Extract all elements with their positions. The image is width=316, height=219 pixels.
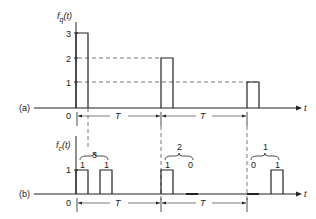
pulse-3 — [76, 33, 88, 108]
period-label-2: T — [200, 111, 207, 121]
y-tick-1: 1 — [66, 78, 71, 88]
x-axis-arrow-icon — [296, 192, 302, 197]
group-value-3: 3 — [92, 150, 97, 160]
x-axis-label: t — [304, 189, 307, 199]
y-tick-1: 1 — [66, 165, 71, 175]
bit-label: 1 — [165, 160, 170, 170]
bit-label: 0 — [188, 160, 193, 170]
origin-a: 0 — [66, 111, 71, 121]
y-axis-label: fc(t) — [56, 140, 71, 152]
panel-b-tag: (b) — [19, 189, 30, 199]
period-label-1: T — [115, 111, 122, 121]
bit-label: 1 — [275, 160, 280, 170]
pulse-2 — [161, 58, 173, 108]
brace-icon — [251, 153, 279, 160]
diagram: t fq(t) 3 2 1 (a) 0 T T — [0, 0, 316, 219]
y-axis-label: fq(t) — [57, 11, 72, 24]
bit-pulse — [76, 170, 88, 194]
brace-icon — [165, 153, 193, 160]
panel-a: t fq(t) 3 2 1 (a) 0 T T — [19, 11, 307, 126]
bit-pulse — [100, 170, 112, 194]
panel-a-tag: (a) — [19, 103, 30, 113]
bit-pulse — [161, 170, 173, 194]
bit-label: 1 — [104, 160, 109, 170]
period-label-1: T — [115, 198, 122, 208]
pulse-1 — [247, 82, 259, 108]
x-axis-label: t — [304, 103, 307, 113]
bit-label: 0 — [251, 160, 256, 170]
origin-b: 0 — [66, 198, 71, 208]
bit-label: 1 — [80, 160, 85, 170]
panel-b: t fc(t) 1 3 1 1 2 1 0 1 0 1 (b) 0 — [19, 136, 307, 212]
x-axis-arrow-icon — [296, 106, 302, 111]
bit-pulse — [271, 170, 283, 194]
y-tick-2: 2 — [66, 54, 71, 64]
period-label-2: T — [200, 198, 207, 208]
group-value-1: 1 — [263, 142, 268, 152]
y-tick-3: 3 — [66, 29, 71, 39]
group-value-2: 2 — [177, 142, 182, 152]
